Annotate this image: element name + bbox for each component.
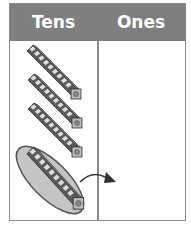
ten-rod-icon bbox=[27, 45, 81, 99]
base-ten-illustration bbox=[0, 0, 191, 227]
regroup-arrow-icon bbox=[80, 172, 116, 183]
ten-rod-icon bbox=[28, 74, 82, 128]
